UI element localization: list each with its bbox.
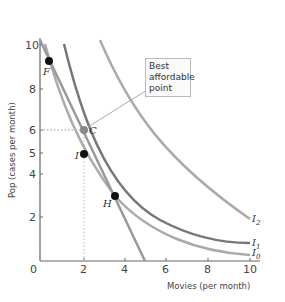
- y-tick-4: 4: [29, 168, 36, 181]
- y-tick-2: 2: [29, 211, 36, 224]
- x-tick-8: 8: [204, 263, 211, 276]
- y-tick-8: 8: [29, 83, 36, 96]
- point-i: [80, 150, 88, 158]
- point-f: [45, 57, 53, 65]
- x-tick-0: 0: [30, 263, 37, 276]
- svg-text:I2: I2: [251, 213, 261, 227]
- x-tick-2: 2: [80, 263, 87, 276]
- x-tick-4: 4: [121, 263, 128, 276]
- y-tick-10: 10: [25, 39, 39, 52]
- label-f: F: [42, 66, 51, 77]
- best-affordable-point-annotation: Best affordable point: [145, 58, 191, 97]
- y-axis-label: Pop (cases per month): [7, 102, 17, 198]
- x-tick-10: 10: [243, 263, 257, 276]
- point-h: [111, 192, 119, 200]
- x-tick-6: 6: [162, 263, 169, 276]
- x-axis-label: Movies (per month): [167, 281, 250, 291]
- annotation-leader: [88, 90, 147, 127]
- label-h: H: [102, 198, 112, 209]
- y-tick-6: 6: [29, 124, 36, 137]
- indifference-chart: 0 2 4 6 8 10 2 4 5 6 8 10 Movies (per mo…: [0, 0, 285, 302]
- y-tick-5: 5: [29, 147, 36, 160]
- label-c: C: [89, 125, 97, 136]
- budget-line: [40, 40, 145, 261]
- point-c: [80, 126, 88, 134]
- label-i: I: [74, 150, 80, 161]
